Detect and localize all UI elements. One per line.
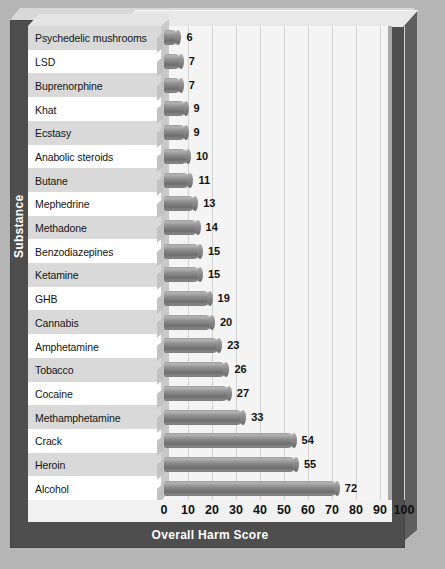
x-tick-label: 100 <box>394 503 415 517</box>
gridline <box>380 26 381 500</box>
bar[interactable] <box>164 220 198 235</box>
x-tick-label: 30 <box>229 503 243 517</box>
category-label: Cocaine <box>28 388 73 400</box>
category-row: Buprenorphine <box>28 73 161 98</box>
category-row: Cocaine <box>28 382 161 407</box>
bar[interactable] <box>164 433 294 448</box>
bar-value-label: 7 <box>189 55 195 67</box>
x-tick-label: 80 <box>349 503 363 517</box>
category-label: Heroin <box>28 459 65 471</box>
gridline <box>308 26 309 500</box>
x-tick-label: 50 <box>277 503 291 517</box>
bar-end-cap <box>183 101 189 116</box>
bar-value-label: 10 <box>196 150 208 162</box>
category-row: Cannabis <box>28 310 161 335</box>
bar-value-label: 14 <box>206 221 218 233</box>
category-row: Methamphetamine <box>28 405 161 430</box>
x-tick-label: 0 <box>161 503 168 517</box>
bar[interactable] <box>164 410 243 425</box>
bar-value-label: 27 <box>237 387 249 399</box>
category-row: Ecstasy <box>28 121 161 146</box>
harm-score-bar-chart: Psychedelic mushroomsLSDBuprenorphineKha… <box>0 0 445 569</box>
x-tick-label: 60 <box>301 503 315 517</box>
x-tick-label: 10 <box>181 503 195 517</box>
gridline <box>356 26 357 500</box>
category-row: Anabolic steroids <box>28 145 161 170</box>
category-label: Crack <box>28 435 62 447</box>
bar-value-label: 54 <box>302 434 314 446</box>
category-row: Butane <box>28 168 161 193</box>
category-row: Psychedelic mushrooms <box>28 26 161 51</box>
bar-value-label: 20 <box>220 316 232 328</box>
bar[interactable] <box>164 457 296 472</box>
category-row: Amphetamine <box>28 334 161 359</box>
gridline <box>260 26 261 500</box>
bar-end-cap <box>291 433 297 448</box>
bar[interactable] <box>164 196 195 211</box>
category-row: Khat <box>28 97 161 122</box>
bar-value-label: 55 <box>304 458 316 470</box>
bar[interactable] <box>164 481 337 496</box>
category-row: Alcohol <box>28 476 161 501</box>
x-tick-label: 40 <box>253 503 267 517</box>
category-row: Heroin <box>28 453 161 478</box>
category-row: Benzodiazepines <box>28 239 161 264</box>
gridline <box>404 26 405 500</box>
category-label: Butane <box>28 175 68 187</box>
category-row: Methadone <box>28 216 161 241</box>
category-label: Cannabis <box>28 317 79 329</box>
bar-end-cap <box>178 78 184 93</box>
category-label: Khat <box>28 104 56 116</box>
bar-end-cap <box>240 410 246 425</box>
gridline <box>332 26 333 500</box>
bar-end-cap <box>209 315 215 330</box>
category-label: Benzodiazepines <box>28 246 113 258</box>
bar-value-label: 11 <box>198 173 210 185</box>
category-label: Ketamine <box>28 269 79 281</box>
bar[interactable] <box>164 291 210 306</box>
category-label: Ecstasy <box>28 127 71 139</box>
category-label: LSD <box>28 56 55 68</box>
category-label: Amphetamine <box>28 341 99 353</box>
category-label: Alcohol <box>28 483 69 495</box>
label-column-bevel <box>28 14 172 26</box>
bar[interactable] <box>164 244 200 259</box>
category-label: Anabolic steroids <box>28 151 113 163</box>
bar-end-cap <box>207 291 213 306</box>
category-label: Tobacco <box>28 364 73 376</box>
bar-value-label: 72 <box>345 481 357 493</box>
category-row: LSD <box>28 50 161 75</box>
category-row: Crack <box>28 429 161 454</box>
category-label: GHB <box>28 293 57 305</box>
bar-value-label: 9 <box>194 126 200 138</box>
category-label-column: Psychedelic mushroomsLSDBuprenorphineKha… <box>28 26 161 500</box>
bar-end-cap <box>293 457 299 472</box>
gridline <box>236 26 237 500</box>
category-row: Mephedrine <box>28 192 161 217</box>
bar-value-label: 19 <box>218 292 230 304</box>
frame-right-bevel <box>405 10 417 540</box>
bar-end-cap <box>226 386 232 401</box>
x-tick-label: 70 <box>325 503 339 517</box>
bar-value-label: 15 <box>208 244 220 256</box>
category-label: Mephedrine <box>28 198 89 210</box>
bar-end-cap <box>195 220 201 235</box>
bar-value-label: 6 <box>186 31 192 43</box>
x-axis-title: Overall Harm Score <box>28 528 392 542</box>
x-tick-label: 20 <box>205 503 219 517</box>
bar-end-cap <box>178 54 184 69</box>
bar[interactable] <box>164 315 212 330</box>
category-label: Methamphetamine <box>28 412 120 424</box>
bar[interactable] <box>164 362 226 377</box>
bar[interactable] <box>164 386 229 401</box>
x-tick-label: 90 <box>373 503 387 517</box>
bar-end-cap <box>334 481 340 496</box>
plot-right-edge <box>388 26 392 500</box>
bar[interactable] <box>164 338 219 353</box>
bar[interactable] <box>164 267 200 282</box>
category-label: Buprenorphine <box>28 80 103 92</box>
category-label: Methadone <box>28 222 87 234</box>
bar-value-label: 26 <box>234 363 246 375</box>
gridline <box>188 26 189 500</box>
bar-value-label: 15 <box>208 268 220 280</box>
